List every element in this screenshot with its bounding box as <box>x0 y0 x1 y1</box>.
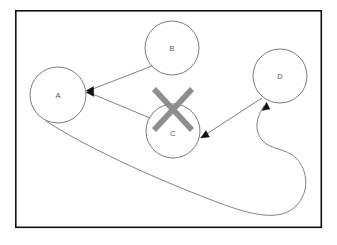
node-a[interactable]: A <box>30 67 86 123</box>
node-c-label: C <box>170 129 176 138</box>
edge-b-to-a <box>90 66 152 90</box>
arrowhead-into-c <box>201 131 210 138</box>
edge-d-to-c <box>205 98 262 135</box>
node-b-label: B <box>170 44 175 53</box>
node-a-label: A <box>56 91 61 100</box>
arrowhead-into-d <box>262 102 270 110</box>
node-d-label: D <box>277 72 282 81</box>
diagram-canvas: A B C D <box>0 0 337 245</box>
edge-c-to-a <box>90 93 150 118</box>
diagram-root: A B C D <box>0 0 337 245</box>
node-d[interactable]: D <box>253 49 307 103</box>
node-b[interactable]: B <box>145 21 199 75</box>
